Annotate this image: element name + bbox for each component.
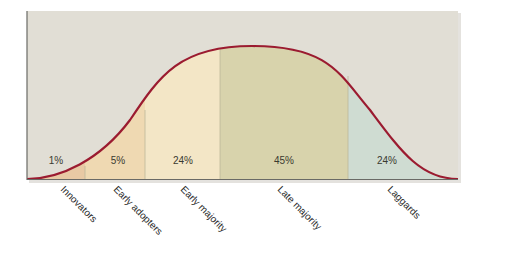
- diffusion-of-innovation-chart: 1% 5% 24% 45% 24% Innovators Early adopt…: [0, 0, 512, 261]
- value-label-laggards: 24%: [377, 155, 397, 166]
- value-label-late-majority: 45%: [274, 155, 294, 166]
- value-label-early-majority: 24%: [173, 155, 193, 166]
- category-label-innovators: Innovators: [59, 184, 100, 225]
- category-label-early-majority: Early majority: [179, 184, 230, 235]
- category-label-late-majority: Late majority: [276, 184, 324, 232]
- value-label-early-adopters: 5%: [111, 155, 126, 166]
- category-label-laggards: Laggards: [386, 184, 423, 221]
- value-label-innovators: 1%: [49, 155, 64, 166]
- category-label-early-adopters: Early adopters: [112, 184, 165, 237]
